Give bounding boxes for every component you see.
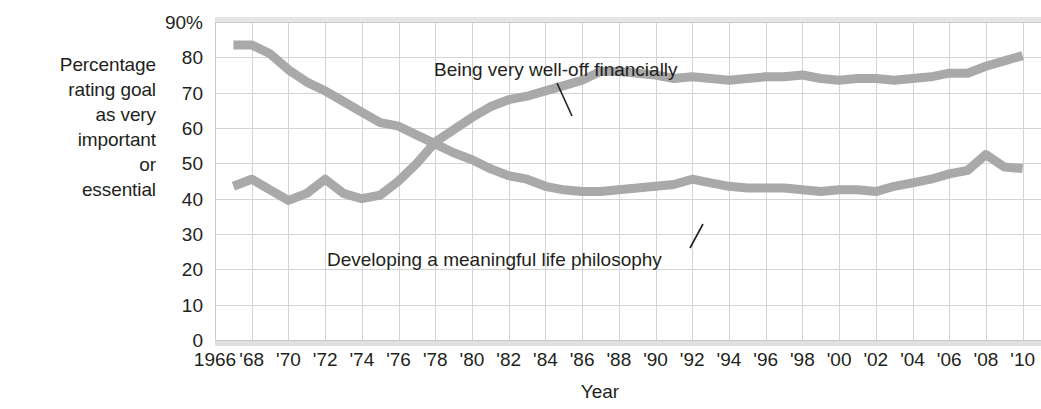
x-tick-label-1978: '78	[423, 349, 448, 370]
x-tick-label-1994: '94	[717, 349, 742, 370]
plot-bottom-band	[215, 340, 1041, 346]
line-chart-svg: 0102030405060708090% 1966'68'70'72'74'76…	[0, 0, 1041, 409]
y-tick-label-30: 30	[182, 224, 203, 245]
y-tick-label-60: 60	[182, 118, 203, 139]
y-tick-label-10: 10	[182, 295, 203, 316]
x-tick-label-1980: '80	[460, 349, 485, 370]
y-tick-label-80: 80	[182, 47, 203, 68]
y-axis-tick-labels: 0102030405060708090%	[165, 12, 203, 351]
x-tick-label-1988: '88	[606, 349, 631, 370]
x-tick-label-1984: '84	[533, 349, 558, 370]
x-tick-label-1970: '70	[276, 349, 301, 370]
x-tick-label-1986: '86	[570, 349, 595, 370]
y-tick-label-90: 90%	[165, 12, 203, 33]
x-tick-label-1976: '76	[386, 349, 411, 370]
x-tick-label-1982: '82	[496, 349, 521, 370]
x-tick-label-2010: '10	[1010, 349, 1035, 370]
x-tick-label-2004: '04	[900, 349, 925, 370]
x-axis-title: Year	[581, 381, 620, 402]
x-tick-label-1998: '98	[790, 349, 815, 370]
x-tick-label-1972: '72	[313, 349, 338, 370]
y-tick-label-20: 20	[182, 259, 203, 280]
chart-container: Percentage rating goal as very important…	[0, 0, 1041, 409]
y-tick-label-0: 0	[192, 330, 203, 351]
y-tick-label-40: 40	[182, 189, 203, 210]
x-tick-label-2008: '08	[974, 349, 999, 370]
y-tick-label-50: 50	[182, 153, 203, 174]
x-axis-tick-labels: 1966'68'70'72'74'76'78'80'82'84'86'88'90…	[194, 349, 1035, 370]
x-tick-label-2002: '02	[863, 349, 888, 370]
x-tick-label-1974: '74	[349, 349, 374, 370]
x-tick-label-1966: 1966	[194, 349, 236, 370]
x-tick-label-1996: '96	[753, 349, 778, 370]
x-tick-label-1990: '90	[643, 349, 668, 370]
x-tick-label-1992: '92	[680, 349, 705, 370]
x-tick-label-2000: '00	[827, 349, 852, 370]
y-tick-label-70: 70	[182, 83, 203, 104]
series-annotation-philosophy: Developing a meaningful life philosophy	[327, 249, 662, 270]
x-tick-label-1968: '68	[239, 349, 264, 370]
series-annotation-wealth: Being very well-off financially	[434, 59, 678, 80]
x-tick-label-2006: '06	[937, 349, 962, 370]
